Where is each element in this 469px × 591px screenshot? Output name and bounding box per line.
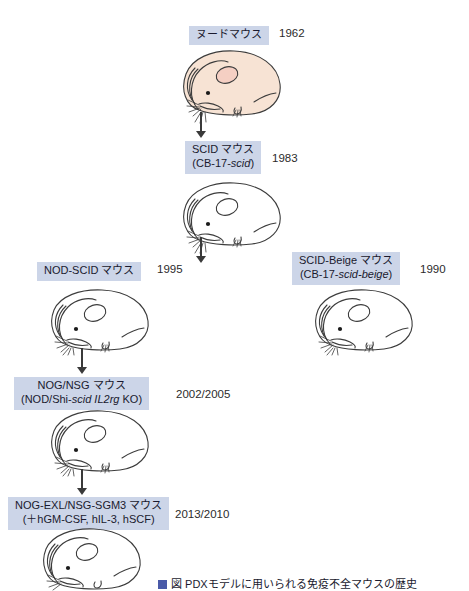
label-nodscid-line1: NOD-SCID マウス	[44, 264, 134, 278]
figure-marker-icon	[158, 580, 167, 589]
label-box-nude: ヌードマウス	[189, 26, 269, 45]
label-box-nog-nsg: NOG/NSG マウス (NOD/Shi-scid IL2rg KO)	[14, 377, 149, 410]
year-scid: 1983	[272, 152, 298, 164]
figure-caption: 図 PDXモデルに用いられる免疫不全マウスの歴史	[158, 578, 417, 591]
nude-mouse-illustration	[168, 46, 290, 128]
year-scid-beige: 1990	[420, 263, 446, 275]
label-box-nodscid: NOD-SCID マウス	[37, 262, 141, 281]
nog-exl-mouse-illustration	[28, 530, 150, 590]
label-nude-line1: ヌードマウス	[196, 28, 262, 42]
scid-mouse-illustration	[168, 180, 290, 254]
label-nog-line2: (NOD/Shi-scid IL2rg KO)	[21, 393, 142, 407]
node-nude-label: ヌードマウス	[189, 24, 269, 45]
node-scid-label: SCID マウス (CB-17-scid)	[185, 141, 261, 174]
arrow-nog-to-exl	[77, 469, 87, 495]
year-nog-exl: 2013/2010	[175, 508, 229, 520]
arrow-scid-to-nodscid	[196, 237, 206, 263]
label-exl-line1: NOG-EXL/NSG-SGM3 マウス	[15, 499, 162, 513]
label-box-scid-beige: SCID-Beige マウス (CB-17-scid-beige)	[292, 252, 400, 285]
arrow-nude-to-scid	[196, 112, 206, 138]
nod-scid-mouse-illustration	[36, 288, 158, 356]
node-nodscid-label: NOD-SCID マウス	[37, 260, 141, 281]
year-nude: 1962	[279, 27, 305, 39]
year-nodscid: 1995	[157, 263, 183, 275]
label-nog-line1: NOG/NSG マウス	[21, 379, 142, 393]
year-nog-nsg: 2002/2005	[176, 388, 230, 400]
nog-nsg-mouse-illustration	[36, 409, 158, 477]
label-scid-line1: SCID マウス	[192, 143, 254, 157]
figure-caption-text: 図 PDXモデルに用いられる免疫不全マウスの歴史	[171, 578, 417, 590]
label-box-nog-exl: NOG-EXL/NSG-SGM3 マウス (＋hGM-CSF, hIL-3, h…	[8, 497, 169, 530]
node-scid-beige-label: SCID-Beige マウス (CB-17-scid-beige)	[292, 252, 400, 285]
scid-beige-mouse-illustration	[300, 288, 422, 356]
label-beige-line2: (CB-17-scid-beige)	[299, 268, 393, 282]
label-box-scid: SCID マウス (CB-17-scid)	[185, 141, 261, 174]
node-nog-exl-label: NOG-EXL/NSG-SGM3 マウス (＋hGM-CSF, hIL-3, h…	[8, 497, 169, 530]
node-nog-nsg-label: NOG/NSG マウス (NOD/Shi-scid IL2rg KO)	[14, 377, 149, 410]
arrow-nodscid-to-nog	[77, 348, 87, 374]
label-scid-line2: (CB-17-scid)	[192, 157, 254, 171]
label-exl-line2: (＋hGM-CSF, hIL-3, hSCF)	[15, 513, 162, 527]
label-beige-line1: SCID-Beige マウス	[299, 254, 393, 268]
